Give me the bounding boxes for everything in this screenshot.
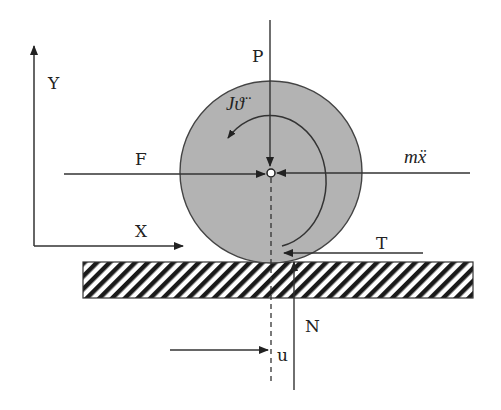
center-point	[267, 169, 275, 177]
force-t-label: T	[376, 233, 388, 253]
x-axis-label: X	[135, 221, 148, 241]
y-axis-label: Y	[47, 73, 60, 93]
offset-u-label: u	[277, 345, 288, 365]
force-f-label: F	[135, 149, 147, 169]
free-body-diagram: Y X Jϑ̈ P F mẍ T N u	[0, 0, 501, 410]
coordinate-axes: Y X	[34, 46, 183, 246]
force-p-label: P	[252, 46, 263, 66]
force-n-label: N	[305, 316, 320, 336]
inertia-force-label: mẍ	[404, 146, 427, 167]
ground-surface	[83, 262, 473, 298]
